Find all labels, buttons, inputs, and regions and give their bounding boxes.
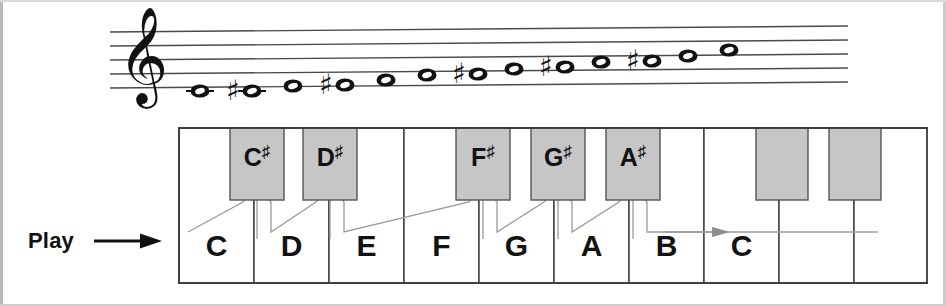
staff-note xyxy=(505,62,524,75)
staff-note xyxy=(377,73,396,86)
staff-line xyxy=(110,54,848,60)
staff-note xyxy=(592,55,611,68)
treble-clef-icon: 𝄞 xyxy=(118,5,168,109)
white-key-label: C xyxy=(179,231,254,261)
sharp-accidental-icon: ♯ xyxy=(319,68,333,101)
staff-line xyxy=(110,82,848,88)
staff-note: ♯ xyxy=(319,68,355,101)
white-key-label: D xyxy=(254,231,329,261)
sharp-accidental-icon: ♯ xyxy=(626,44,640,77)
white-key-label: A xyxy=(554,231,629,261)
white-key-label: F xyxy=(404,231,479,261)
staff-line xyxy=(110,40,848,46)
black-key-label: F♯ xyxy=(456,143,510,170)
white-key-label: G xyxy=(479,231,554,261)
staff-note xyxy=(679,49,698,62)
staff-note: ♯ xyxy=(226,74,266,107)
white-key-label: E xyxy=(329,231,404,261)
sharp-accidental-icon: ♯ xyxy=(226,74,240,107)
staff-svg: 𝄞 ♯♯♯♯♯ xyxy=(0,0,946,122)
black-key-label: C♯ xyxy=(230,143,284,170)
sharp-accidental-icon: ♯ xyxy=(539,50,553,83)
staff-notes: ♯♯♯♯♯ xyxy=(186,43,739,107)
svg-text:𝄞: 𝄞 xyxy=(118,5,168,109)
play-label: Play xyxy=(28,228,74,254)
right-arrow-icon xyxy=(94,232,164,250)
black-key[interactable] xyxy=(829,128,881,200)
black-key-label: G♯ xyxy=(531,143,585,170)
black-key-label: A♯ xyxy=(606,143,660,170)
white-key-label: B xyxy=(629,231,704,261)
piano-keyboard[interactable]: CDEFGABC C♯D♯F♯G♯A♯ xyxy=(178,127,928,284)
black-key[interactable] xyxy=(756,128,808,200)
black-key-label: D♯ xyxy=(303,143,357,170)
staff-note xyxy=(284,79,303,92)
staff-note xyxy=(720,43,739,56)
staff-note xyxy=(418,68,437,81)
music-staff: 𝄞 ♯♯♯♯♯ xyxy=(0,0,946,122)
staff-line xyxy=(110,26,848,32)
staff-note xyxy=(186,84,214,97)
chromatic-scale-figure: 𝄞 ♯♯♯♯♯ Play CDEFGABC C♯D♯F♯G♯A♯ xyxy=(0,0,946,306)
staff-note: ♯ xyxy=(626,44,662,77)
white-key-label: C xyxy=(704,231,779,261)
staff-note: ♯ xyxy=(539,50,575,83)
sharp-accidental-icon: ♯ xyxy=(452,57,466,90)
